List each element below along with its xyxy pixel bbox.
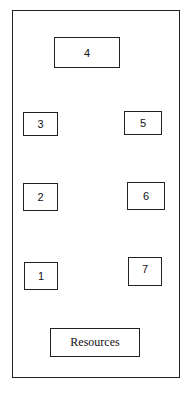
resources-box: Resources	[50, 328, 140, 357]
station-5: 5	[124, 111, 162, 135]
station-2: 2	[23, 183, 58, 211]
station-1: 1	[24, 262, 58, 290]
station-label: 4	[84, 47, 90, 59]
resources-label: Resources	[70, 335, 119, 350]
station-4: 4	[54, 37, 120, 68]
station-label: 5	[140, 117, 146, 129]
station-6: 6	[127, 182, 165, 210]
station-label: 1	[38, 270, 44, 282]
station-label: 2	[37, 191, 43, 203]
station-3: 3	[23, 112, 58, 136]
station-7: 7	[128, 257, 162, 286]
station-label: 3	[37, 118, 43, 130]
station-label: 7	[142, 263, 148, 275]
station-label: 6	[143, 190, 149, 202]
